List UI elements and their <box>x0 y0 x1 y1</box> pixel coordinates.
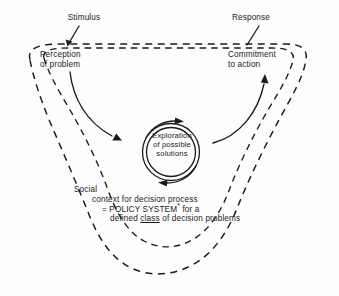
social-caption-line-3: = POLICY SYSTEM* for a <box>66 205 281 215</box>
social-caption-line-1: Social <box>66 185 281 195</box>
social-caption-line-4: defined class of decision problems <box>66 214 281 224</box>
social-context-caption: Social context for decision process = PO… <box>66 185 281 224</box>
commitment-line-1: Commitment <box>228 50 294 60</box>
response-label: Response <box>218 13 284 23</box>
social-caption-line-2: context for decision process <box>66 195 281 205</box>
policy-system-text: = POLICY SYSTEM <box>102 205 177 214</box>
perception-line-1: Perception <box>40 50 102 60</box>
stimulus-label: Stimulus <box>54 13 114 23</box>
defined-prefix: defined <box>110 214 140 223</box>
class-emphasis: class <box>140 214 159 223</box>
exploration-line-3: solutions <box>140 150 204 159</box>
exploration-to-commitment-arrow <box>213 74 269 143</box>
defined-suffix: of decision problems <box>160 214 241 223</box>
perception-of-problem-label: Perception of problem <box>40 50 102 69</box>
perception-line-2: of problem <box>40 60 102 70</box>
response-connector <box>247 26 259 45</box>
commitment-to-action-label: Commitment to action <box>228 50 294 69</box>
decision-process-diagram: Stimulus Response Perception of problem … <box>0 0 339 296</box>
exploration-label: Exploration of possible solutions <box>140 132 204 159</box>
perception-to-exploration-arrow <box>70 72 122 141</box>
policy-system-suffix: for a <box>180 205 200 214</box>
commitment-line-2: to action <box>228 60 294 70</box>
